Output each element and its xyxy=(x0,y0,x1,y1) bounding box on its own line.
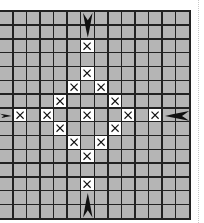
grid-cell xyxy=(0,122,14,136)
grid-cell xyxy=(163,191,177,205)
grid-cell xyxy=(0,95,14,109)
grid-cell xyxy=(41,122,55,136)
grid-cell xyxy=(109,67,123,81)
stitch-x-cell xyxy=(109,95,123,109)
grid-cell xyxy=(14,122,28,136)
grid-cell xyxy=(163,164,177,178)
grid-cell xyxy=(95,53,109,67)
grid-cell xyxy=(95,191,109,205)
grid-cell xyxy=(122,67,136,81)
grid-cell xyxy=(14,136,28,150)
grid-cell xyxy=(14,81,28,95)
grid-cell xyxy=(14,40,28,54)
cross-stitch-x-icon xyxy=(150,110,160,120)
grid-cell xyxy=(0,150,14,164)
grid-cell xyxy=(95,26,109,40)
grid-cell xyxy=(95,205,109,219)
grid-cell xyxy=(163,53,177,67)
stitch-x-cell xyxy=(68,136,82,150)
stitch-x-cell xyxy=(81,109,95,123)
grid-cell xyxy=(41,178,55,192)
grid-cell xyxy=(81,164,95,178)
grid-cell xyxy=(163,40,177,54)
grid-cell xyxy=(109,205,123,219)
grid-cell xyxy=(27,40,41,54)
grid-cell xyxy=(95,109,109,123)
grid-cell xyxy=(109,136,123,150)
grid-cell xyxy=(54,109,68,123)
grid-cell xyxy=(0,164,14,178)
grid-cell xyxy=(54,191,68,205)
grid-cell xyxy=(149,122,163,136)
grid-cell xyxy=(54,178,68,192)
grid-cell xyxy=(14,26,28,40)
grid-cell xyxy=(149,191,163,205)
grid-cell xyxy=(68,109,82,123)
grid-cell xyxy=(109,164,123,178)
stitch-x-cell xyxy=(81,40,95,54)
cross-stitch-x-icon xyxy=(82,179,92,189)
stitch-x-cell xyxy=(41,109,55,123)
grid-cell xyxy=(136,53,150,67)
grid-cell xyxy=(27,136,41,150)
grid-cell xyxy=(149,95,163,109)
stitch-x-cell xyxy=(81,178,95,192)
grid-cell xyxy=(136,67,150,81)
grid-cell xyxy=(176,205,190,219)
grid-cell xyxy=(27,67,41,81)
cross-stitch-x-icon xyxy=(15,110,25,120)
grid-cell xyxy=(149,67,163,81)
grid-cell xyxy=(136,136,150,150)
grid-cell xyxy=(109,191,123,205)
grid-cell xyxy=(95,164,109,178)
stitch-x-cell xyxy=(81,67,95,81)
cross-stitch-x-icon xyxy=(55,123,65,133)
grid-cell xyxy=(54,81,68,95)
grid-cell xyxy=(122,178,136,192)
grid-cell xyxy=(14,164,28,178)
grid-cell xyxy=(109,26,123,40)
grid-cell xyxy=(68,191,82,205)
grid-cell xyxy=(68,164,82,178)
cross-stitch-x-icon xyxy=(82,68,92,78)
cross-stitch-x-icon xyxy=(82,151,92,161)
grid-cell xyxy=(41,164,55,178)
grid-cell xyxy=(176,191,190,205)
grid-cell xyxy=(0,53,14,67)
top-center-arrow-icon xyxy=(81,12,95,40)
grid-cell xyxy=(136,164,150,178)
grid-cell xyxy=(0,178,14,192)
grid-cell xyxy=(122,122,136,136)
grid-cell xyxy=(122,53,136,67)
grid-cell xyxy=(68,178,82,192)
grid-cell xyxy=(27,26,41,40)
grid-cell xyxy=(0,136,14,150)
cross-stitch-x-icon xyxy=(82,41,92,51)
grid-cell xyxy=(41,40,55,54)
grid-cell xyxy=(136,178,150,192)
grid-cell xyxy=(81,53,95,67)
stitch-x-cell xyxy=(68,81,82,95)
grid-cell xyxy=(149,81,163,95)
grid-cell xyxy=(176,95,190,109)
grid-cell xyxy=(163,178,177,192)
grid-cell xyxy=(0,12,14,26)
grid-cell xyxy=(176,26,190,40)
grid-cell xyxy=(163,205,177,219)
grid-cell xyxy=(27,81,41,95)
grid-cell xyxy=(14,67,28,81)
grid-cell xyxy=(41,26,55,40)
grid-cell xyxy=(122,191,136,205)
grid-cell xyxy=(109,81,123,95)
grid-cell xyxy=(176,136,190,150)
cross-stitch-x-icon xyxy=(110,123,120,133)
grid-cell xyxy=(149,164,163,178)
grid-cell xyxy=(95,122,109,136)
grid-cell xyxy=(163,67,177,81)
grid-cell xyxy=(176,67,190,81)
grid-cell xyxy=(109,40,123,54)
grid-cell xyxy=(95,150,109,164)
cross-stitch-x-icon xyxy=(110,96,120,106)
grid-cell xyxy=(68,26,82,40)
grid-cell xyxy=(95,12,109,26)
